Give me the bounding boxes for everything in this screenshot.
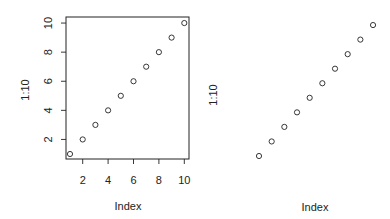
x-tick-label: 4 <box>105 174 111 186</box>
y-tick-label: 4 <box>42 107 54 113</box>
data-point-marker <box>345 52 350 57</box>
left-data-points <box>67 20 186 156</box>
x-tick-label: 6 <box>130 174 136 186</box>
data-point-marker <box>269 139 274 144</box>
right-scatter-panel: Index 1:10 <box>207 22 376 213</box>
data-point-marker <box>93 122 98 127</box>
data-point-marker <box>282 124 287 129</box>
data-point-marker <box>144 64 149 69</box>
right-y-axis-title: 1:10 <box>207 84 219 105</box>
data-point-marker <box>131 79 136 84</box>
x-tick-label: 8 <box>156 174 162 186</box>
data-point-marker <box>118 93 123 98</box>
data-point-marker <box>294 110 299 115</box>
y-tick-label: 8 <box>42 49 54 55</box>
left-y-axis-title: 1:10 <box>19 79 31 100</box>
y-tick-label: 2 <box>42 136 54 142</box>
data-point-marker <box>106 108 111 113</box>
data-point-marker <box>370 22 375 27</box>
x-tick-label: 2 <box>80 174 86 186</box>
chart-canvas: 246810 246810 Index 1:10 Index 1:10 <box>0 0 390 219</box>
y-tick-label: 10 <box>42 17 54 29</box>
data-point-marker <box>156 50 161 55</box>
data-point-marker <box>256 153 261 158</box>
data-point-marker <box>80 137 85 142</box>
right-data-points <box>256 22 375 158</box>
left-x-axis-title: Index <box>115 200 142 212</box>
data-point-marker <box>320 81 325 86</box>
left-y-axis: 246810 <box>42 17 66 143</box>
left-scatter-panel: 246810 246810 Index 1:10 <box>19 17 190 212</box>
data-point-marker <box>67 151 72 156</box>
data-point-marker <box>307 95 312 100</box>
data-point-marker <box>332 66 337 71</box>
left-x-axis: 246810 <box>80 159 191 186</box>
right-x-axis-title: Index <box>302 201 329 213</box>
y-tick-label: 6 <box>42 78 54 84</box>
data-point-marker <box>182 20 187 25</box>
x-tick-label: 10 <box>178 174 190 186</box>
data-point-marker <box>358 37 363 42</box>
data-point-marker <box>169 35 174 40</box>
